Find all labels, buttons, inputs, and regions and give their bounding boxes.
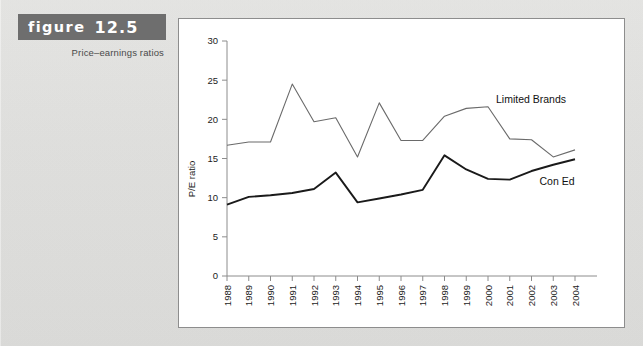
figure-caption-block: figure 12.5 Price–earnings ratios — [18, 14, 168, 58]
x-tick-label: 1995 — [374, 285, 385, 306]
x-tick-label: 1989 — [243, 285, 254, 306]
series-label-con-ed: Con Ed — [540, 175, 575, 187]
x-tick-label: 1998 — [439, 285, 450, 306]
x-tick-label: 1992 — [309, 285, 320, 306]
x-axis: 1988198919901991199219931994199519961997… — [222, 276, 598, 306]
y-tick-label: 25 — [207, 75, 218, 86]
x-tick-label: 2004 — [570, 285, 581, 306]
y-axis-title: P/E ratio — [186, 161, 197, 197]
x-tick-label: 1994 — [352, 285, 363, 306]
y-tick-label: 20 — [207, 114, 218, 125]
x-tick-label: 2002 — [526, 285, 537, 306]
y-tick-label: 5 — [213, 231, 218, 242]
pe-ratio-line-chart: 051015202530 198819891990199119921993199… — [179, 19, 624, 327]
x-tick-label: 1996 — [396, 285, 407, 306]
y-tick-label: 10 — [207, 192, 218, 203]
y-tick-label: 30 — [207, 35, 218, 46]
x-tick-label: 1993 — [330, 285, 341, 306]
figure-label-banner: figure 12.5 — [18, 14, 166, 40]
y-tick-label: 15 — [207, 153, 218, 164]
y-axis: 051015202530 — [207, 35, 227, 281]
figure-label-word: figure — [28, 19, 85, 35]
x-tick-label: 2000 — [483, 285, 494, 306]
series-line-con-ed — [227, 155, 575, 204]
x-tick-label: 1997 — [417, 285, 428, 306]
figure-subtitle: Price–earnings ratios — [18, 47, 168, 58]
figure-label-number: 12.5 — [94, 18, 138, 37]
x-tick-label: 1988 — [222, 285, 233, 306]
series-annotations: Limited BrandsCon Ed — [496, 93, 575, 187]
x-tick-label: 1991 — [287, 285, 298, 306]
x-tick-label: 2001 — [504, 285, 515, 306]
x-tick-label: 1990 — [265, 285, 276, 306]
x-tick-label: 2003 — [548, 285, 559, 306]
chart-frame: 051015202530 198819891990199119921993199… — [178, 18, 625, 328]
figure-page: figure 12.5 Price–earnings ratios 051015… — [0, 0, 643, 346]
x-tick-label: 1999 — [461, 285, 472, 306]
series-label-limited-brands: Limited Brands — [496, 93, 566, 105]
y-tick-label: 0 — [213, 270, 218, 281]
